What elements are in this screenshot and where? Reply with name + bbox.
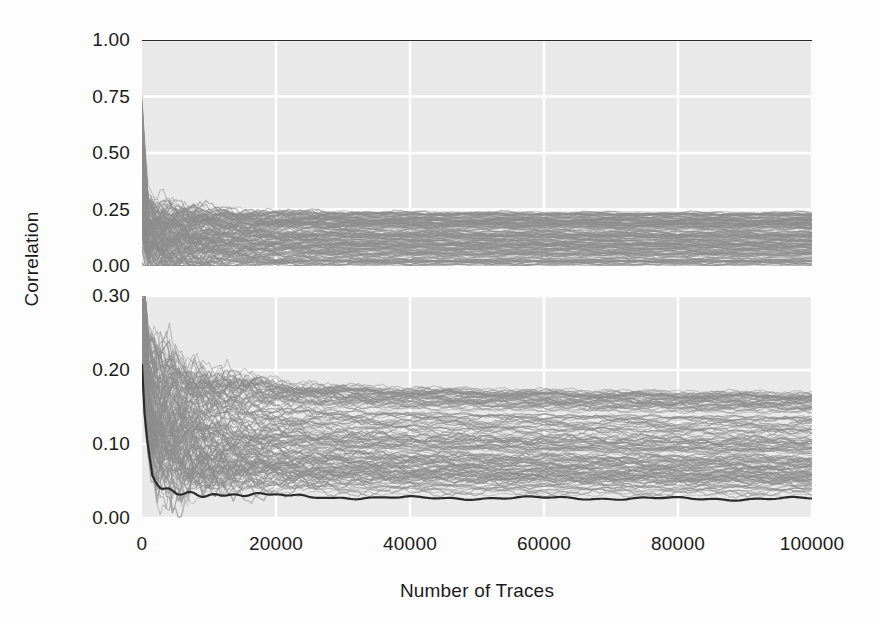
y-tick-label: 0.10 [46,434,130,453]
y-axis-ticks-bottom: 0.000.100.200.30 [46,296,130,518]
y-axis-ticks-top: 0.000.250.500.751.00 [46,40,130,266]
x-tick-label: 0 [137,534,148,553]
wrong-key-trace-bundle [142,296,812,518]
y-tick-label: 0.30 [46,286,130,305]
x-tick-label: 60000 [517,534,571,553]
y-tick-label: 0.20 [46,360,130,379]
x-tick-label: 40000 [383,534,437,553]
x-tick-label: 80000 [651,534,705,553]
zoomed-plot-area [142,296,812,518]
y-axis-label: Correlation [21,149,43,369]
zoomed-panel [142,296,812,518]
wrong-key-trace-bundle [142,95,812,266]
y-tick-label: 1.00 [46,30,130,49]
x-axis-label: Number of Traces [142,580,812,602]
correlation-convergence-figure: known and unchanged, so we can fix the p… [0,0,880,623]
x-tick-label: 20000 [249,534,303,553]
y-tick-label: 0.50 [46,143,130,162]
full-scale-plot-area [142,40,812,266]
full-scale-panel [142,40,812,266]
y-tick-label: 0.25 [46,200,130,219]
x-tick-label: 100000 [780,534,845,553]
y-tick-label: 0.75 [46,87,130,106]
y-tick-label: 0.00 [46,508,130,527]
y-tick-label: 0.00 [46,256,130,275]
